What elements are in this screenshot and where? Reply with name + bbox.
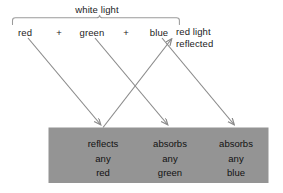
surface-cell-green: absorbs any green	[153, 137, 187, 181]
reflected-light-line2: reflected	[176, 38, 213, 51]
surface-cell-blue-line1: absorbs	[219, 137, 253, 152]
white-light-label: white light	[75, 4, 118, 15]
surface-cell-red-line3: red	[88, 166, 119, 181]
plus-operator-2: +	[123, 27, 129, 38]
surface-cell-blue-line3: blue	[219, 166, 253, 181]
light-component-blue: blue	[150, 27, 168, 38]
white-light-brace	[13, 15, 180, 24]
incident-ray-green	[95, 38, 168, 125]
surface-cell-red: reflects any red	[88, 137, 119, 181]
surface-cell-blue: absorbs any blue	[219, 137, 253, 181]
plus-operator-1: +	[56, 27, 62, 38]
surface-cell-green-line2: any	[153, 152, 187, 167]
incident-ray-red	[28, 38, 101, 125]
reflected-light-line1: red light	[176, 26, 211, 39]
surface-cell-green-line3: green	[153, 166, 187, 181]
incident-ray-blue	[162, 38, 234, 125]
light-component-green: green	[80, 27, 105, 38]
surface-cell-green-line1: absorbs	[153, 137, 187, 152]
light-reflection-diagram: white light red + green + blue red light…	[0, 0, 283, 193]
light-component-red: red	[18, 27, 32, 38]
surface-cell-red-line1: reflects	[88, 137, 119, 152]
surface-cell-blue-line2: any	[219, 152, 253, 167]
reflected-ray-red	[103, 39, 172, 128]
surface-cell-red-line2: any	[88, 152, 119, 167]
